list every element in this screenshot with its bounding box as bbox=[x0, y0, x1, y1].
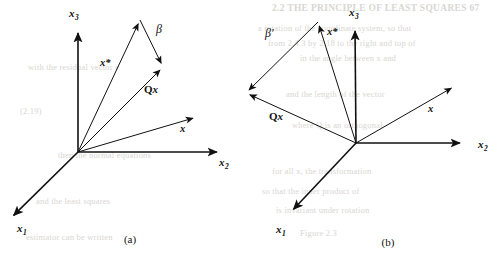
angle-label-beta-prime-b: β′ bbox=[264, 26, 274, 40]
angle-leg-beta-prime-b bbox=[249, 22, 318, 90]
panel-b: x3x2x1x*Qxxβ′(b) bbox=[249, 6, 488, 249]
vector-label-Qx-b: Qx bbox=[269, 110, 284, 122]
panel-a: x3x2x1x*Qxxβ(a) bbox=[14, 7, 229, 246]
vector-label-x-a: x bbox=[179, 123, 185, 134]
vector-x-star-a bbox=[78, 24, 138, 152]
axis-label-x3-b: x3 bbox=[348, 6, 359, 21]
vector-Qx-b bbox=[250, 95, 356, 143]
axis-label-x2-a: x2 bbox=[218, 156, 229, 171]
vector-x-b bbox=[356, 88, 451, 143]
vector-label-x-b: x bbox=[427, 103, 433, 114]
angle-label-beta-a: β bbox=[155, 22, 162, 36]
axis-x1-a bbox=[14, 152, 78, 215]
panel-caption-a: (a) bbox=[124, 233, 137, 246]
axis-label-x3-a: x3 bbox=[68, 7, 79, 22]
axis-label-x1-b: x1 bbox=[275, 223, 286, 238]
vector-label-x-star-b: x* bbox=[326, 26, 338, 37]
vector-diagram: x3x2x1x*Qxxβ(a)x3x2x1x*Qxxβ′(b) bbox=[0, 0, 497, 256]
axis-label-x2-b: x2 bbox=[477, 138, 488, 153]
vector-label-x-star-a: x* bbox=[99, 57, 111, 68]
vector-x-star-b bbox=[319, 26, 356, 143]
panel-caption-b: (b) bbox=[382, 236, 395, 249]
axis-x3-b bbox=[355, 31, 356, 143]
vector-label-Qx-a: Qx bbox=[144, 83, 159, 95]
axis-label-x1-a: x1 bbox=[16, 222, 27, 237]
axis-x1-b bbox=[294, 143, 356, 209]
figure-page: 2.2 THE PRINCIPLE OF LEAST SQUARES 67 a … bbox=[0, 0, 497, 256]
